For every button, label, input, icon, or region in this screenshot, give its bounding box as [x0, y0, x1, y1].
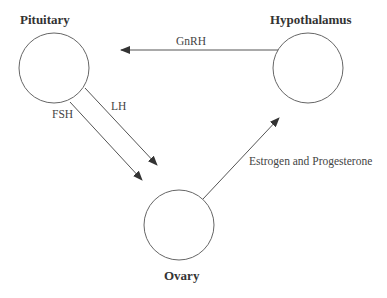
ovary-node: [144, 190, 214, 260]
hypothalamus-label: Hypothalamus: [270, 12, 352, 28]
hypothalamus-node: [273, 33, 343, 103]
fsh-arrow: [70, 102, 142, 180]
estrogen-progesterone-label: Estrogen and Progesterone: [249, 155, 372, 167]
pituitary-label: Pituitary: [20, 12, 70, 28]
fsh-label: FSH: [52, 108, 73, 120]
pituitary-node: [19, 33, 89, 103]
lh-label: LH: [111, 100, 126, 112]
gnrh-label: GnRH: [176, 35, 206, 47]
hormone-feedback-diagram: Pituitary Hypothalamus Ovary GnRH LH FSH…: [0, 0, 387, 298]
ovary-label: Ovary: [164, 268, 199, 284]
